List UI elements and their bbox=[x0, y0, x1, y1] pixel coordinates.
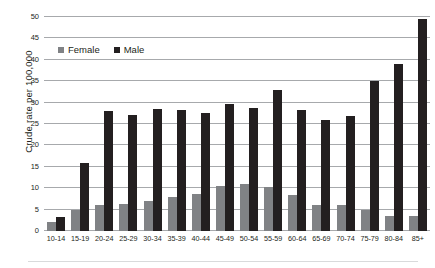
x-tick-label: 45-49 bbox=[213, 234, 237, 243]
bar-male bbox=[153, 109, 162, 231]
x-tick-label: 50-54 bbox=[237, 234, 261, 243]
bar-male bbox=[249, 108, 258, 231]
y-tick-label: 25 bbox=[31, 119, 39, 128]
bar-group bbox=[358, 17, 382, 231]
legend-swatch-icon bbox=[58, 47, 64, 53]
y-tick-label: 45 bbox=[31, 33, 39, 42]
bar-male bbox=[346, 116, 355, 231]
x-tick-label: 40-44 bbox=[189, 234, 213, 243]
bar-group bbox=[285, 17, 309, 231]
bar-female bbox=[119, 204, 128, 231]
x-tick-label: 70-74 bbox=[334, 234, 358, 243]
bar-male bbox=[225, 104, 234, 231]
bar-female bbox=[361, 210, 370, 231]
bar-male bbox=[128, 115, 137, 231]
bar-female bbox=[337, 205, 346, 231]
x-tick-label: 15-19 bbox=[68, 234, 92, 243]
x-axis-labels: 10-1415-1920-2425-2930-3435-3940-4445-49… bbox=[44, 234, 430, 243]
legend-label: Female bbox=[68, 44, 100, 55]
bar-female bbox=[288, 195, 297, 231]
bar-male bbox=[273, 90, 282, 231]
bar-chart: Crude rate per 100,000 05101520253035404… bbox=[0, 0, 435, 268]
bar-male bbox=[177, 110, 186, 231]
y-tick-label: 5 bbox=[35, 204, 39, 213]
x-tick-label: 75-79 bbox=[358, 234, 382, 243]
bar-male bbox=[321, 120, 330, 231]
y-tick-label: 30 bbox=[31, 97, 39, 106]
bar-group bbox=[309, 17, 333, 231]
y-tick-label: 20 bbox=[31, 140, 39, 149]
bar-female bbox=[144, 201, 153, 231]
bar-male bbox=[370, 81, 379, 231]
bar-male bbox=[394, 64, 403, 231]
bar-group bbox=[382, 17, 406, 231]
y-tick-label: 40 bbox=[31, 54, 39, 63]
bar-group bbox=[165, 17, 189, 231]
bar-male bbox=[418, 19, 427, 231]
x-tick-label: 85+ bbox=[406, 234, 430, 243]
bar-female bbox=[47, 222, 56, 231]
x-tick-label: 55-59 bbox=[261, 234, 285, 243]
legend-item-male[interactable]: Male bbox=[114, 44, 145, 55]
x-tick-label: 35-39 bbox=[165, 234, 189, 243]
bar-male bbox=[297, 110, 306, 231]
bar-female bbox=[240, 184, 249, 231]
legend-label: Male bbox=[124, 44, 145, 55]
legend-item-female[interactable]: Female bbox=[58, 44, 100, 55]
bottom-divider bbox=[28, 261, 418, 262]
bar-group bbox=[213, 17, 237, 231]
bar-female bbox=[385, 216, 394, 231]
legend-swatch-icon bbox=[114, 47, 120, 53]
bar-group bbox=[334, 17, 358, 231]
y-tick-label: 0 bbox=[35, 226, 39, 235]
x-tick-label: 25-29 bbox=[116, 234, 140, 243]
bar-female bbox=[95, 205, 104, 231]
x-tick-label: 65-69 bbox=[309, 234, 333, 243]
bar-male bbox=[80, 163, 89, 231]
bar-male bbox=[104, 111, 113, 231]
y-tick-label: 10 bbox=[31, 183, 39, 192]
bar-male bbox=[56, 217, 65, 231]
bar-male bbox=[201, 113, 210, 231]
bar-female bbox=[71, 210, 80, 231]
x-tick-label: 20-24 bbox=[92, 234, 116, 243]
bar-female bbox=[192, 194, 201, 231]
bar-group bbox=[237, 17, 261, 231]
x-tick-label: 10-14 bbox=[44, 234, 68, 243]
x-tick-label: 80-84 bbox=[382, 234, 406, 243]
bar-group bbox=[261, 17, 285, 231]
y-tick-label: 35 bbox=[31, 76, 39, 85]
y-tick-label: 50 bbox=[31, 12, 39, 21]
chart-legend: FemaleMale bbox=[58, 44, 144, 55]
bar-female bbox=[409, 216, 418, 231]
bar-female bbox=[168, 197, 177, 231]
bar-group bbox=[406, 17, 430, 231]
bar-group bbox=[189, 17, 213, 231]
bar-female bbox=[216, 186, 225, 231]
y-tick-label: 15 bbox=[31, 161, 39, 170]
bar-female bbox=[312, 205, 321, 231]
x-tick-label: 30-34 bbox=[141, 234, 165, 243]
bar-female bbox=[264, 187, 273, 231]
x-tick-label: 60-64 bbox=[285, 234, 309, 243]
